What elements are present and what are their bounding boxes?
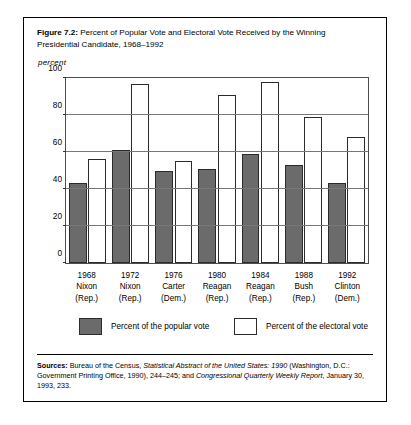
gridline bbox=[66, 151, 368, 152]
x-label-party: (Rep.) bbox=[280, 293, 328, 304]
divider bbox=[37, 354, 373, 355]
y-axis-tick-label: 40 bbox=[36, 174, 62, 184]
bar-popular-vote bbox=[112, 150, 130, 263]
bar-electoral-vote bbox=[304, 117, 322, 263]
legend-label-popular: Percent of the popular vote bbox=[111, 322, 209, 331]
x-label-name: Reagan bbox=[193, 281, 241, 292]
x-label-party: (Rep.) bbox=[106, 293, 154, 304]
x-axis-group-label: 1984Reagan(Rep.) bbox=[236, 270, 284, 304]
sources-italic-2: Congressional Quarterly Weekly Report bbox=[196, 371, 323, 380]
bar-electoral-vote bbox=[218, 95, 236, 263]
chart-legend: Percent of the popular vote Percent of t… bbox=[37, 318, 375, 348]
bar-electoral-vote bbox=[261, 82, 279, 263]
x-label-year: 1980 bbox=[193, 270, 241, 281]
x-label-name: Carter bbox=[150, 281, 198, 292]
bar-electoral-vote bbox=[131, 84, 149, 263]
y-axis-tick-mark bbox=[63, 225, 66, 226]
x-label-year: 1976 bbox=[150, 270, 198, 281]
legend-item-popular: Percent of the popular vote bbox=[79, 318, 209, 335]
y-axis-tick-label: 100 bbox=[36, 63, 62, 73]
y-axis-tick-label: 0 bbox=[36, 248, 62, 258]
y-axis-tick-label: 20 bbox=[36, 211, 62, 221]
legend-swatch-popular-icon bbox=[79, 318, 102, 335]
x-label-party: (Rep.) bbox=[63, 293, 111, 304]
x-axis-group-label: 1992Clinton(Dem.) bbox=[323, 270, 371, 304]
bar-popular-vote bbox=[198, 169, 216, 263]
x-label-year: 1988 bbox=[280, 270, 328, 281]
x-label-name: Nixon bbox=[63, 281, 111, 292]
y-axis-tick-mark bbox=[63, 188, 66, 189]
bar-electoral-vote bbox=[88, 159, 106, 263]
x-label-party: (Rep.) bbox=[193, 293, 241, 304]
x-label-year: 1972 bbox=[106, 270, 154, 281]
bar-popular-vote bbox=[242, 154, 260, 263]
chart-bars-layer bbox=[66, 78, 368, 263]
gridline bbox=[66, 114, 368, 115]
gridline bbox=[66, 188, 368, 189]
figure-caption: Figure 7.2: Percent of Popular Vote and … bbox=[37, 27, 367, 51]
y-axis-tick-mark bbox=[63, 114, 66, 115]
x-axis-group-label: 1968Nixon(Rep.) bbox=[63, 270, 111, 304]
sources-italic-1: Statistical Abstract of the United State… bbox=[143, 361, 287, 370]
x-label-name: Bush bbox=[280, 281, 328, 292]
gridline bbox=[66, 225, 368, 226]
x-axis-group-label: 1980Reagan(Rep.) bbox=[193, 270, 241, 304]
x-label-party: (Dem.) bbox=[150, 293, 198, 304]
y-axis-tick-mark bbox=[63, 151, 66, 152]
x-label-year: 1984 bbox=[236, 270, 284, 281]
x-label-name: Nixon bbox=[106, 281, 154, 292]
x-label-party: (Rep.) bbox=[236, 293, 284, 304]
x-label-name: Clinton bbox=[323, 281, 371, 292]
sources-note: Sources: Bureau of the Census, Statistic… bbox=[37, 361, 374, 392]
bar-electoral-vote bbox=[175, 161, 193, 263]
legend-swatch-electoral-icon bbox=[234, 318, 257, 335]
bar-electoral-vote bbox=[347, 137, 365, 263]
bar-popular-vote bbox=[69, 183, 87, 263]
figure-caption-text: Percent of Popular Vote and Electoral Vo… bbox=[37, 28, 325, 49]
x-axis-group-label: 1976Carter(Dem.) bbox=[150, 270, 198, 304]
chart-plot-wrapper: 020406080100 bbox=[37, 73, 375, 273]
x-axis-group-label: 1972Nixon(Rep.) bbox=[106, 270, 154, 304]
legend-label-electoral: Percent of the electoral vote bbox=[266, 322, 368, 331]
x-label-year: 1968 bbox=[63, 270, 111, 281]
y-axis-tick-mark bbox=[63, 262, 66, 263]
sources-text-1: Bureau of the Census, bbox=[68, 361, 144, 370]
x-label-name: Reagan bbox=[236, 281, 284, 292]
bar-popular-vote bbox=[285, 165, 303, 263]
y-axis-tick-label: 60 bbox=[36, 137, 62, 147]
bar-popular-vote bbox=[328, 183, 346, 263]
x-label-year: 1992 bbox=[323, 270, 371, 281]
chart-plot-area: 020406080100 bbox=[65, 77, 369, 264]
y-axis-tick-mark bbox=[63, 77, 66, 78]
figure-container: Figure 7.2: Percent of Popular Vote and … bbox=[23, 17, 387, 402]
x-axis-group-label: 1988Bush(Rep.) bbox=[280, 270, 328, 304]
x-axis-labels: 1968Nixon(Rep.)1972Nixon(Rep.)1976Carter… bbox=[37, 270, 375, 316]
y-axis-tick-label: 80 bbox=[36, 100, 62, 110]
sources-label: Sources: bbox=[37, 361, 68, 370]
legend-item-electoral: Percent of the electoral vote bbox=[234, 318, 368, 335]
bar-popular-vote bbox=[155, 171, 173, 264]
figure-label: Figure 7.2: bbox=[37, 28, 78, 37]
x-label-party: (Dem.) bbox=[323, 293, 371, 304]
